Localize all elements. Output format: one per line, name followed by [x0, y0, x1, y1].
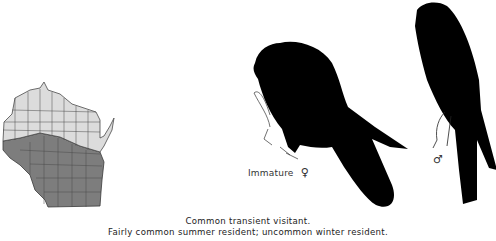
male-symbol-icon: ♂: [433, 153, 443, 166]
bird-silhouette-immature-female: [240, 35, 430, 210]
caption-line-2: Fairly common summer resident; uncommon …: [0, 227, 496, 238]
bird-silhouette-male: [405, 0, 496, 210]
status-caption: Common transient visitant. Fairly common…: [0, 216, 496, 238]
immature-female-label: Immature ♀: [248, 166, 309, 179]
caption-line-1: Common transient visitant.: [0, 216, 496, 227]
female-symbol-icon: ♀: [301, 166, 309, 179]
immature-label-text: Immature: [248, 168, 294, 178]
range-map: [0, 80, 120, 212]
